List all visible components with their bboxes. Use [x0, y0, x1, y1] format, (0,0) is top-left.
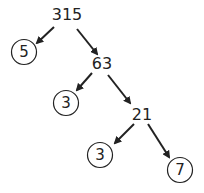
- prime-factor-3: 3: [61, 96, 71, 111]
- arrow-63-to-3: [77, 73, 92, 90]
- arrow-21-to-3: [115, 124, 134, 143]
- factor-tree-diagram: 31556332137: [0, 0, 204, 193]
- arrow-315-to-63: [77, 29, 97, 54]
- prime-factor-5: 5: [19, 45, 29, 60]
- prime-factor-3: 3: [95, 148, 105, 163]
- composite-node-315: 315: [52, 7, 83, 23]
- arrow-21-to-7: [148, 124, 169, 157]
- arrow-63-to-21: [108, 75, 130, 103]
- composite-node-21: 21: [132, 107, 152, 123]
- factor-tree-edges: [0, 0, 204, 193]
- arrow-315-to-5: [37, 27, 54, 43]
- prime-factor-7: 7: [175, 163, 185, 178]
- composite-node-63: 63: [92, 56, 112, 72]
